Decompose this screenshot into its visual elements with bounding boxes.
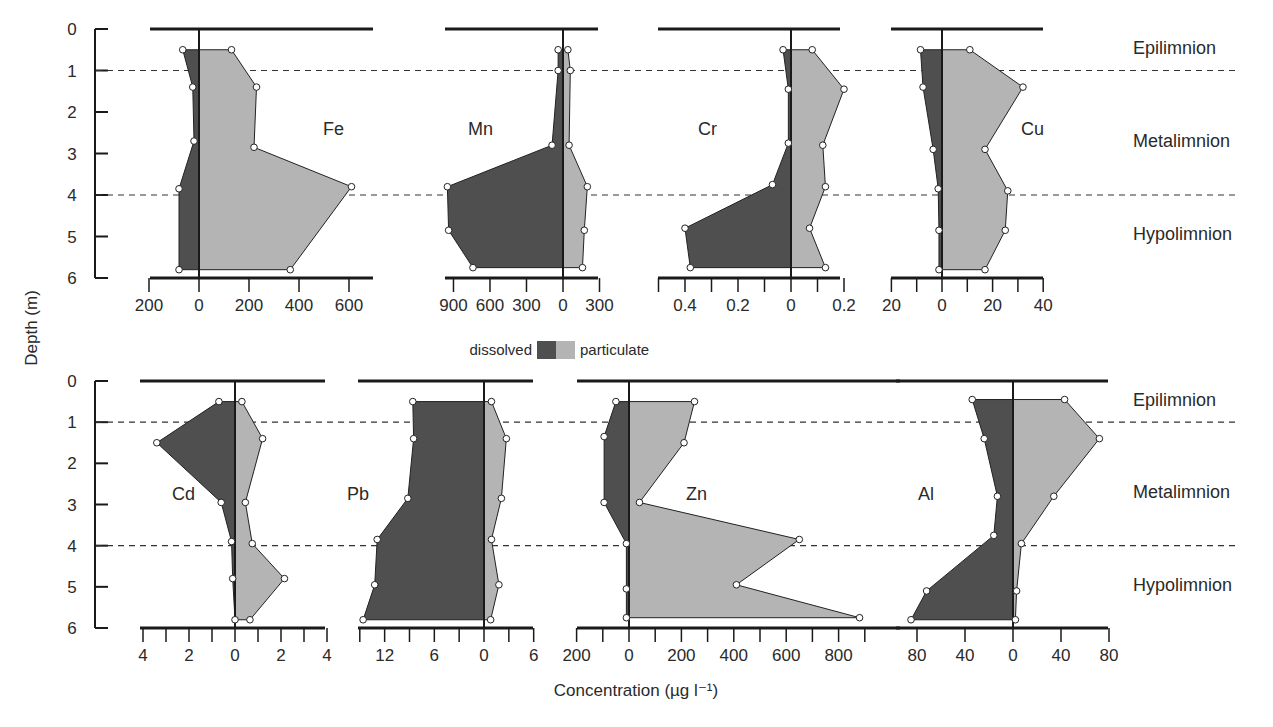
particulate-point	[251, 144, 258, 151]
zone-label-metalimnion: Metalimnion	[1133, 131, 1230, 151]
particulate-point	[681, 439, 688, 446]
depth-tick-label: 5	[67, 228, 76, 247]
dissolved-point	[682, 225, 689, 232]
dissolved-point	[623, 586, 630, 593]
x-tick-label: 80	[1100, 646, 1119, 665]
panel-zn: 2000200400600800Zn	[562, 381, 900, 665]
x-tick-label: 900	[439, 296, 467, 315]
particulate-point	[796, 536, 803, 543]
particulate-area	[235, 402, 284, 620]
dissolved-point	[923, 588, 930, 595]
dissolved-point	[228, 538, 235, 545]
dissolved-point	[405, 495, 412, 502]
dissolved-point	[601, 433, 608, 440]
dissolved-point	[549, 142, 556, 149]
depth-profile-chart: 0123456EpilimnionMetalimnionHypolimnion0…	[0, 0, 1273, 727]
particulate-point	[259, 435, 266, 442]
x-tick-label: 600	[335, 296, 363, 315]
x-tick-label: 300	[512, 296, 540, 315]
particulate-point	[253, 84, 260, 91]
particulate-point	[841, 86, 848, 93]
dissolved-point	[218, 499, 225, 506]
dissolved-point	[470, 264, 477, 271]
x-tick-label: 0	[786, 296, 795, 315]
particulate-point	[1004, 188, 1011, 195]
panel-cd: 42024Cd	[138, 381, 331, 665]
particulate-point	[820, 142, 827, 149]
dissolved-point	[191, 138, 198, 145]
dissolved-point	[994, 493, 1001, 500]
particulate-point	[498, 495, 505, 502]
x-tick-label: 12	[375, 646, 394, 665]
dissolved-point	[930, 146, 937, 153]
particulate-point	[856, 614, 863, 621]
dissolved-point	[216, 398, 223, 405]
dissolved-point	[969, 396, 976, 403]
particulate-point	[1096, 435, 1103, 442]
x-tick-label: 400	[720, 646, 748, 665]
dissolved-point	[917, 46, 924, 53]
x-tick-label: 20	[983, 296, 1002, 315]
dissolved-point	[601, 499, 608, 506]
x-tick-label: 0.2	[832, 296, 856, 315]
particulate-point	[487, 616, 494, 623]
particulate-point	[982, 146, 989, 153]
dissolved-point	[623, 614, 630, 621]
dissolved-point	[991, 532, 998, 539]
element-label-fe: Fe	[323, 119, 344, 139]
element-label-zn: Zn	[686, 484, 707, 504]
legend-particulate-swatch	[556, 341, 575, 359]
particulate-point	[636, 499, 643, 506]
x-axis-title: Concentration (µg l⁻¹)	[554, 681, 718, 700]
panel-pb: 12606Pb	[347, 381, 538, 665]
element-label-cu: Cu	[1021, 119, 1044, 139]
particulate-point	[249, 540, 256, 547]
particulate-point	[566, 142, 573, 149]
dissolved-point	[687, 264, 694, 271]
dissolved-point	[229, 575, 236, 582]
dissolved-point	[908, 616, 915, 623]
particulate-point	[967, 46, 974, 53]
particulate-point	[822, 183, 829, 190]
dissolved-area	[179, 50, 199, 270]
particulate-point	[809, 46, 816, 53]
dissolved-point	[936, 266, 943, 273]
dissolved-point	[780, 46, 787, 53]
dissolved-point	[623, 540, 630, 547]
legend-dissolved-swatch	[537, 341, 556, 359]
depth-tick-label: 6	[67, 269, 76, 288]
x-tick-label: 0.4	[673, 296, 697, 315]
dissolved-point	[179, 46, 186, 53]
dissolved-point	[176, 266, 183, 273]
depth-tick-label: 1	[67, 62, 76, 81]
particulate-area	[791, 50, 844, 268]
x-tick-label: 300	[585, 296, 613, 315]
depth-tick-label: 3	[67, 145, 76, 164]
particulate-point	[1051, 493, 1058, 500]
depth-tick-label: 2	[67, 454, 76, 473]
dissolved-area	[911, 400, 1013, 620]
x-tick-label: 0	[230, 646, 239, 665]
dissolved-point	[176, 185, 183, 192]
x-tick-label: 2	[276, 646, 285, 665]
x-tick-label: 800	[824, 646, 852, 665]
dissolved-area	[363, 402, 484, 620]
zone-label-hypolimnion: Hypolimnion	[1133, 575, 1232, 595]
x-tick-label: 0	[194, 296, 203, 315]
element-label-pb: Pb	[347, 484, 369, 504]
dissolved-point	[371, 581, 378, 588]
particulate-point	[1018, 540, 1025, 547]
zone-label-metalimnion: Metalimnion	[1133, 482, 1230, 502]
dissolved-point	[154, 439, 161, 446]
dissolved-point	[232, 616, 239, 623]
x-tick-label: 4	[138, 646, 147, 665]
zone-label-epilimnion: Epilimnion	[1133, 38, 1216, 58]
x-tick-label: 200	[667, 646, 695, 665]
x-tick-label: 6	[529, 646, 538, 665]
x-tick-label: 20	[882, 296, 901, 315]
x-tick-label: 40	[956, 646, 975, 665]
panel-fe: 2000200400600Fe	[135, 29, 373, 315]
x-tick-label: 6	[430, 646, 439, 665]
panel-al: 804004080Al	[896, 381, 1118, 665]
dissolved-point	[360, 616, 367, 623]
